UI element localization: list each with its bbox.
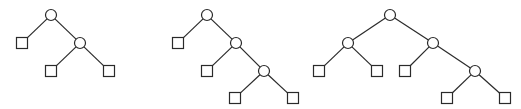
tree-edge [213, 47, 233, 66]
tree-edge [55, 19, 76, 39]
leaf-node-square [500, 93, 511, 104]
tree-3 [314, 10, 511, 104]
tree-edge [325, 47, 345, 66]
leaf-node-square [372, 66, 383, 77]
tree-diagram-canvas [0, 0, 521, 109]
tree-edge [353, 18, 386, 40]
internal-node-circle [259, 66, 270, 77]
tree-edge [84, 47, 104, 66]
tree-edge [184, 19, 204, 38]
internal-node-circle [46, 10, 57, 21]
leaf-node-square [173, 38, 184, 49]
leaf-node-square [104, 66, 115, 77]
leaf-node-square [230, 93, 241, 104]
tree-edge [28, 19, 48, 38]
tree-edge [395, 18, 429, 40]
tree-edge [453, 75, 472, 93]
internal-node-circle [470, 66, 481, 77]
leaf-node-square [17, 38, 28, 49]
leaf-node-square [442, 93, 453, 104]
internal-node-circle [75, 38, 86, 49]
internal-node-circle [385, 10, 396, 21]
leaf-node-square [314, 66, 325, 77]
leaf-node-square [400, 66, 411, 77]
internal-node-circle [202, 10, 213, 21]
tree-edge [352, 47, 372, 66]
tree-edge [241, 75, 260, 93]
tree-2 [173, 10, 299, 104]
tree-edge [240, 47, 260, 67]
leaf-node-square [288, 93, 299, 104]
internal-node-circle [428, 38, 439, 49]
tree-edge [438, 46, 471, 68]
tree-edge [57, 47, 77, 66]
tree-edge [211, 19, 232, 39]
tree-1 [17, 10, 115, 77]
binary-trees-figure [0, 0, 521, 109]
tree-edge [411, 47, 430, 66]
internal-node-circle [343, 38, 354, 49]
tree-edge [268, 75, 287, 93]
tree-edge [479, 75, 499, 93]
leaf-node-square [202, 66, 213, 77]
leaf-node-square [46, 66, 57, 77]
internal-node-circle [231, 38, 242, 49]
